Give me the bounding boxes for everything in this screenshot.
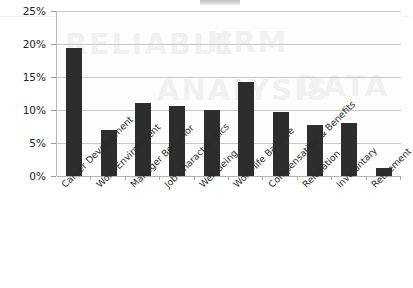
y-axis-tick	[51, 77, 56, 78]
y-axis-tick-label: 5%	[29, 137, 46, 149]
y-axis-tick	[51, 11, 56, 12]
gridline-25	[57, 11, 401, 12]
y-axis-tick	[51, 143, 56, 144]
y-axis-tick	[51, 110, 56, 111]
y-axis-tick-label: 20%	[23, 38, 46, 50]
y-axis-tick	[51, 44, 56, 45]
x-axis-labels: Career DevelopmentWork EnvironmentManage…	[0, 180, 409, 288]
y-axis-tick-label: 15%	[23, 71, 46, 83]
y-axis-tick	[51, 176, 56, 177]
y-axis-labels: 25%20%15%10%5%0%	[0, 11, 52, 176]
bar	[66, 48, 82, 176]
y-axis-tick-label: 10%	[23, 104, 46, 116]
y-axis-tick-label: 25%	[23, 5, 46, 17]
gridline-20	[57, 44, 401, 45]
gridline-15	[57, 77, 401, 78]
cropped-title-artifact	[200, 0, 240, 5]
